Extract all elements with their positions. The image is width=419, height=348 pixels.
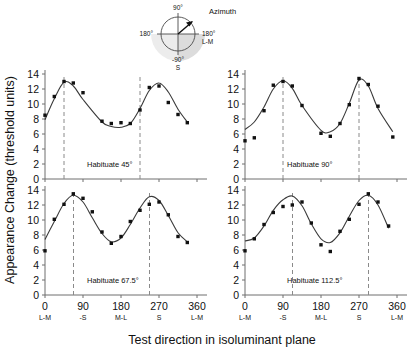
data-point — [119, 235, 122, 238]
data-point — [43, 114, 46, 117]
figure-container: 90° 180° 180° L-M -90° S Azimuth Appeara… — [0, 0, 419, 348]
data-point — [148, 86, 151, 89]
y-tick-label: 6 — [33, 128, 39, 140]
data-point — [100, 120, 103, 123]
data-point — [291, 203, 294, 206]
data-point — [138, 108, 141, 111]
data-point — [53, 95, 56, 98]
data-point — [376, 200, 379, 203]
fitted-curve — [45, 82, 187, 128]
data-point — [376, 105, 379, 108]
data-point — [262, 109, 265, 112]
data-point — [157, 200, 160, 203]
compass-right-label: 180° — [202, 30, 216, 37]
data-point — [100, 230, 103, 233]
compass-top-label: 90° — [173, 4, 183, 11]
data-point — [119, 121, 122, 124]
y-tick-label: 0 — [33, 289, 39, 301]
x-tick-sublabel: L-M — [391, 314, 403, 321]
y-tick-label: 14 — [27, 68, 39, 80]
y-tick-label: 8 — [33, 113, 39, 125]
x-tick-label: 0 — [242, 300, 248, 312]
data-point — [338, 122, 341, 125]
fitted-curve — [245, 79, 393, 133]
x-tick-sublabel: -S — [280, 314, 287, 321]
x-tick-sublabel: M-L — [115, 314, 127, 321]
data-point — [186, 241, 189, 244]
data-point — [319, 243, 322, 246]
panel-habituate-112-5: 024681012140L-M90-S180M-L270S360L-MHabit… — [227, 184, 407, 321]
y-tick-label: 4 — [33, 143, 39, 155]
x-tick-label: 180 — [112, 300, 130, 312]
data-point — [338, 230, 341, 233]
data-point — [300, 104, 303, 107]
x-tick-sublabel: -S — [80, 314, 87, 321]
data-point — [281, 205, 284, 208]
fitted-curve — [245, 195, 389, 243]
x-tick-sublabel: S — [157, 314, 162, 321]
data-point — [129, 220, 132, 223]
data-point — [348, 218, 351, 221]
y-tick-label: 12 — [227, 83, 239, 95]
y-tick-label: 14 — [227, 68, 239, 80]
panel-label: Habituate 112.5° — [287, 276, 342, 285]
y-tick-label: 12 — [227, 199, 239, 211]
data-point — [43, 249, 46, 252]
y-tick-label: 14 — [27, 184, 39, 196]
x-tick-sublabel: S — [357, 314, 362, 321]
y-tick-label: 14 — [227, 184, 239, 196]
x-tick-label: 270 — [150, 300, 168, 312]
data-point — [243, 139, 246, 142]
y-tick-label: 2 — [233, 274, 239, 286]
data-point — [148, 203, 151, 206]
data-point — [72, 81, 75, 84]
y-tick-label: 12 — [27, 83, 39, 95]
data-point — [157, 84, 160, 87]
data-point — [387, 224, 390, 227]
x-tick-label: 90 — [77, 300, 89, 312]
data-point — [72, 192, 75, 195]
y-axis-title: Appearance Change (threshold units) — [3, 76, 17, 284]
y-tick-label: 6 — [233, 244, 239, 256]
x-tick-label: 180 — [312, 300, 330, 312]
data-point — [357, 203, 360, 206]
data-point — [348, 103, 351, 106]
data-point — [243, 249, 246, 252]
panel-label: Habituate 45° — [87, 160, 133, 169]
y-tick-label: 12 — [27, 199, 39, 211]
data-point — [129, 122, 132, 125]
compass-bottom-label: -90° — [172, 56, 184, 63]
data-point — [167, 101, 170, 104]
data-point — [300, 200, 303, 203]
data-point — [53, 218, 56, 221]
data-point — [62, 80, 65, 83]
y-tick-label: 10 — [27, 214, 39, 226]
y-tick-label: 10 — [227, 214, 239, 226]
y-tick-label: 6 — [33, 244, 39, 256]
data-point — [253, 136, 256, 139]
data-point — [319, 132, 322, 135]
azimuth-compass: 90° 180° 180° L-M -90° S Azimuth — [140, 4, 237, 71]
x-tick-sublabel: M-L — [315, 314, 327, 321]
compass-title: Azimuth — [209, 7, 236, 16]
data-point — [272, 84, 275, 87]
data-point — [291, 84, 294, 87]
data-point — [367, 83, 370, 86]
data-point — [357, 77, 360, 80]
y-tick-label: 10 — [27, 98, 39, 110]
y-tick-label: 0 — [233, 289, 239, 301]
x-tick-sublabel: L-M — [39, 314, 51, 321]
compass-left-label: 180° — [140, 30, 154, 37]
x-tick-label: 270 — [350, 300, 368, 312]
panel-label: Habituate 67.5° — [87, 276, 139, 285]
x-tick-label: 360 — [388, 300, 406, 312]
data-point — [81, 91, 84, 94]
data-point — [81, 197, 84, 200]
x-tick-sublabel: L-M — [191, 314, 203, 321]
y-tick-label: 4 — [233, 259, 239, 271]
data-point — [91, 210, 94, 213]
y-tick-label: 2 — [33, 274, 39, 286]
data-point — [167, 213, 170, 216]
y-tick-label: 8 — [233, 229, 239, 241]
data-point — [62, 203, 65, 206]
